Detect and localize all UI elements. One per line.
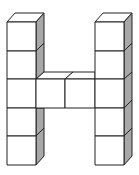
cube-figure	[0, 0, 139, 175]
crossbar	[36, 72, 95, 108]
right-column	[95, 13, 132, 165]
